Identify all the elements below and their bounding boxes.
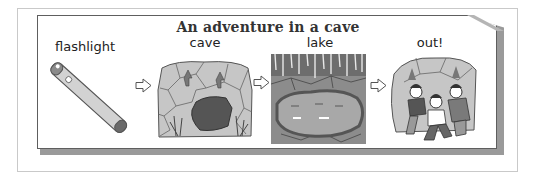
step-label-cave: cave — [170, 35, 240, 50]
underground-lake-icon — [271, 54, 366, 144]
right-arrow-icon — [135, 78, 152, 93]
right-arrow-icon — [370, 78, 387, 93]
page-title: An adventure in a cave — [0, 19, 536, 35]
cave-icon — [156, 60, 253, 138]
right-arrow-icon — [253, 75, 270, 90]
flashlight-icon — [48, 62, 128, 134]
step-label-lake: lake — [285, 35, 355, 50]
step-label-flashlight: flashlight — [45, 39, 125, 54]
step-label-out: out! — [395, 35, 465, 50]
explorers-exiting-cave-icon — [386, 54, 481, 144]
